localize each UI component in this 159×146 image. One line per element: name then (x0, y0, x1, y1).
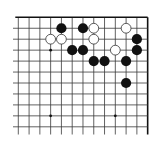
white-stone (89, 23, 99, 33)
black-stone (89, 56, 99, 66)
star-point (49, 49, 52, 52)
black-stone (67, 45, 77, 55)
black-stone (99, 56, 109, 66)
star-point (49, 114, 52, 117)
white-stone (46, 34, 56, 44)
white-stone (110, 45, 120, 55)
white-stone (89, 34, 99, 44)
go-board[interactable] (0, 0, 159, 146)
white-stone (121, 23, 131, 33)
black-stone (132, 34, 142, 44)
black-stone (132, 45, 142, 55)
board-grid (13, 17, 148, 134)
star-point (114, 114, 117, 117)
black-stone (121, 56, 131, 66)
black-stone (78, 23, 88, 33)
white-stone (57, 34, 67, 44)
black-stone (78, 45, 88, 55)
black-stone (56, 23, 66, 33)
black-stone (121, 78, 131, 88)
